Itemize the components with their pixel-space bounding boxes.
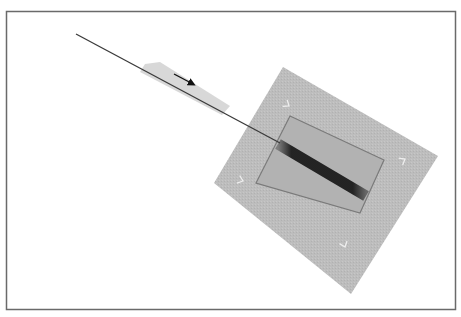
wire-halo (140, 62, 230, 115)
diagram-stage (0, 0, 461, 317)
wire-line (76, 34, 280, 143)
diagram-svg (0, 0, 461, 317)
